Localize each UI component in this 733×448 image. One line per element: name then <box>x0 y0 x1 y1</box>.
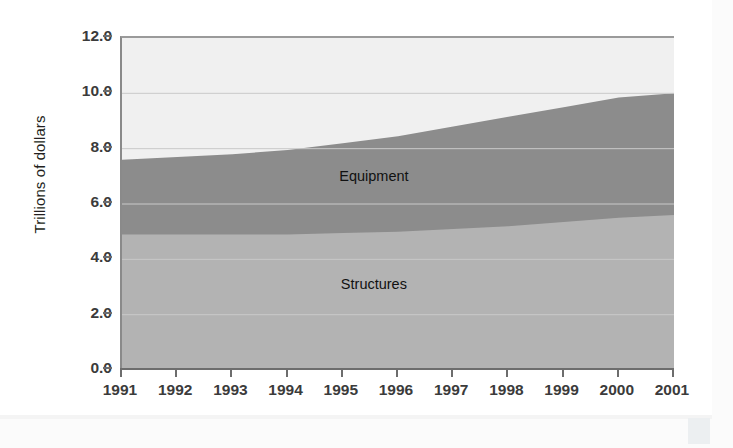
x-tick-label: 1997 <box>421 381 481 399</box>
y-tick-mark <box>103 201 112 203</box>
plot-area: EquipmentStructures <box>120 36 672 368</box>
x-tick-label: 1998 <box>476 381 536 399</box>
x-tick-label: 1993 <box>200 381 260 399</box>
x-tick-mark <box>617 368 619 377</box>
y-axis-ticks: 0.02.04.06.08.010.012.0 <box>0 36 112 368</box>
x-tick-label: 2000 <box>587 381 647 399</box>
x-tick-label: 1999 <box>532 381 592 399</box>
x-tick-mark <box>451 368 453 377</box>
x-tick-label: 2001 <box>642 381 702 399</box>
scan-corner-artifact <box>688 418 710 444</box>
x-tick-mark <box>286 368 288 377</box>
x-tick-mark <box>341 368 343 377</box>
y-tick-mark <box>103 256 112 258</box>
x-tick-mark <box>175 368 177 377</box>
x-tick-label: 1996 <box>366 381 426 399</box>
x-tick-label: 1992 <box>145 381 205 399</box>
scan-edge-artifact <box>0 415 712 419</box>
x-tick-mark <box>672 368 674 377</box>
series-label-equipment: Equipment <box>339 168 408 184</box>
x-tick-mark <box>230 368 232 377</box>
x-tick-label: 1994 <box>256 381 316 399</box>
y-tick-mark <box>103 367 112 369</box>
y-tick-mark <box>103 146 112 148</box>
y-tick-mark <box>103 35 112 37</box>
x-tick-mark <box>562 368 564 377</box>
x-tick-mark <box>120 368 122 377</box>
series-label-structures: Structures <box>341 276 407 292</box>
y-tick-mark <box>103 90 112 92</box>
x-tick-label: 1991 <box>90 381 150 399</box>
x-tick-label: 1995 <box>311 381 371 399</box>
area-series-svg <box>122 38 674 370</box>
x-tick-mark <box>396 368 398 377</box>
area-band-structures <box>122 215 674 370</box>
stacked-area-chart: Trillions of dollars 0.02.04.06.08.010.0… <box>0 0 712 415</box>
plot-canvas <box>120 36 674 370</box>
x-tick-mark <box>506 368 508 377</box>
y-tick-mark <box>103 312 112 314</box>
figure-page: Trillions of dollars 0.02.04.06.08.010.0… <box>0 0 733 448</box>
page-card: Trillions of dollars 0.02.04.06.08.010.0… <box>0 0 712 415</box>
